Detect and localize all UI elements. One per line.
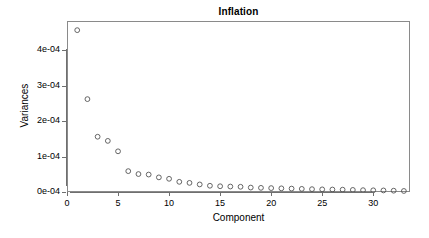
data-point xyxy=(218,184,223,189)
data-point xyxy=(167,176,172,181)
x-axis-line xyxy=(70,192,373,193)
page-title: Inflation xyxy=(67,6,410,17)
data-point xyxy=(208,183,213,188)
y-axis-ticklabels: 0e-041e-042e-043e-044e-04 xyxy=(0,0,60,238)
data-point xyxy=(401,189,406,194)
scree-plot: Inflation 051015202530 0e-041e-042e-043e… xyxy=(0,0,429,238)
y-tick-label: 1e-04 xyxy=(4,151,60,161)
data-point xyxy=(279,186,284,191)
y-tick xyxy=(62,121,66,122)
y-tick-label: 3e-04 xyxy=(4,80,60,90)
y-tick xyxy=(62,50,66,51)
data-point xyxy=(105,138,110,143)
x-tick xyxy=(271,192,272,196)
y-tick-label: 2e-04 xyxy=(4,115,60,125)
y-axis-title: Variances xyxy=(19,36,30,176)
data-point xyxy=(289,186,294,191)
x-tick-label: 25 xyxy=(307,198,337,208)
y-tick-label: 0e-04 xyxy=(4,186,60,196)
y-axis-line xyxy=(66,49,67,186)
x-tick-label: 5 xyxy=(103,198,133,208)
x-tick-label: 15 xyxy=(205,198,235,208)
x-tick-label: 20 xyxy=(256,198,286,208)
x-tick xyxy=(118,192,119,196)
data-points-layer xyxy=(67,21,410,192)
data-point xyxy=(197,182,202,187)
data-point xyxy=(116,149,121,154)
x-tick-label: 10 xyxy=(154,198,184,208)
x-axis-title: Component xyxy=(67,212,410,223)
x-tick xyxy=(67,192,68,196)
data-point xyxy=(156,175,161,180)
data-point xyxy=(136,172,141,177)
y-tick xyxy=(62,86,66,87)
x-tick-label: 30 xyxy=(358,198,388,208)
x-tick xyxy=(322,192,323,196)
data-point xyxy=(75,28,80,33)
data-point xyxy=(95,134,100,139)
y-tick xyxy=(62,192,66,193)
x-tick xyxy=(169,192,170,196)
y-tick xyxy=(62,157,66,158)
data-point xyxy=(228,184,233,189)
data-point xyxy=(391,188,396,193)
y-tick-label: 4e-04 xyxy=(4,44,60,54)
data-point xyxy=(187,180,192,185)
data-point xyxy=(146,172,151,177)
data-point xyxy=(177,179,182,184)
data-point xyxy=(381,188,386,193)
data-point xyxy=(85,97,90,102)
data-point xyxy=(269,186,274,191)
data-point xyxy=(238,184,243,189)
data-point xyxy=(299,186,304,191)
data-point xyxy=(248,185,253,190)
data-point xyxy=(310,187,315,192)
x-tick xyxy=(373,192,374,196)
x-tick xyxy=(220,192,221,196)
data-point xyxy=(259,185,264,190)
data-point xyxy=(126,169,131,174)
